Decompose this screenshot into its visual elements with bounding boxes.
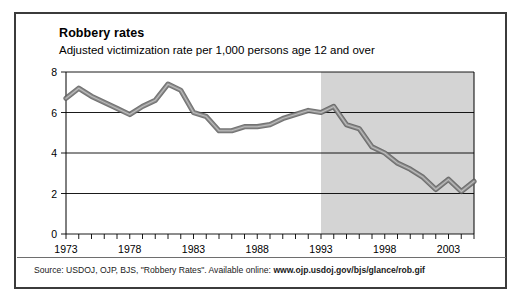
source-note: Source: USDOJ, OJP, BJS, "Robbery Rates"… xyxy=(34,264,425,276)
svg-text:4: 4 xyxy=(51,147,57,159)
source-prefix: Source: USDOJ, OJP, BJS, "Robbery Rates"… xyxy=(34,265,273,275)
svg-text:0: 0 xyxy=(51,228,57,240)
svg-text:1983: 1983 xyxy=(182,243,206,255)
chart-plot-area: 02468 1973197819831988199319982003 xyxy=(16,14,509,291)
x-axis-ticks xyxy=(66,234,474,239)
x-axis-labels: 1973197819831988199319982003 xyxy=(54,243,460,255)
svg-text:1993: 1993 xyxy=(309,243,333,255)
line-chart: 02468 1973197819831988199319982003 xyxy=(16,14,509,291)
svg-text:1988: 1988 xyxy=(246,243,270,255)
source-url: www.ojp.usdoj.gov/bjs/glance/rob.gif xyxy=(273,265,425,275)
svg-text:1973: 1973 xyxy=(54,243,78,255)
svg-text:2: 2 xyxy=(51,188,57,200)
svg-text:6: 6 xyxy=(51,107,57,119)
svg-text:1978: 1978 xyxy=(118,243,142,255)
svg-text:2003: 2003 xyxy=(437,243,461,255)
y-axis-labels: 02468 xyxy=(51,66,66,240)
svg-text:1998: 1998 xyxy=(373,243,397,255)
svg-text:8: 8 xyxy=(51,66,57,78)
footer-divider xyxy=(17,257,506,258)
figure-frame: Robbery rates Adjusted victimization rat… xyxy=(14,12,507,289)
